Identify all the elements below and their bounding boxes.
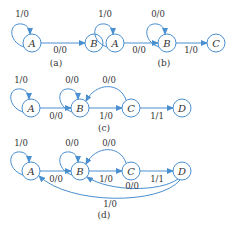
edge-label: 1/1 [150,174,164,184]
edge-label: 1/0 [15,9,29,19]
edge-label: 1/0 [99,174,113,184]
edge-d-C-B [86,150,126,164]
state-label: A [26,103,34,114]
edge-label: 0/0 [132,45,146,55]
edge-label: 0/0 [102,138,116,148]
edge-label: 0/0 [65,138,79,148]
state-diagrams: 1/0 0/0 A B (a) 1/0 0/0 0/0 1/0 A B C (b… [0,0,238,232]
state-label: D [177,103,186,114]
state-label: C [127,103,135,114]
diagram-c: 1/0 0/0 0/0 1/0 0/0 1/1 A B C D (c) [11,75,191,133]
edge-label: 1/1 [150,111,164,121]
state-label: A [110,38,118,49]
edge-label: 1/0 [184,45,198,55]
state-label: B [75,103,83,114]
caption: (b) [158,58,171,68]
edge-label: 0/0 [125,181,139,191]
state-label: D [177,166,186,177]
caption: (c) [98,123,110,133]
edge-label: 1/0 [14,75,28,85]
edge-label: 0/0 [49,111,63,121]
edge-label: 0/0 [53,45,67,55]
caption: (a) [50,58,62,68]
edge-label: 1/0 [98,9,112,19]
diagram-d: 1/0 0/0 0/0 1/0 0/0 1/1 0/0 1/0 A B C D … [11,138,191,220]
caption: (d) [98,210,111,220]
diagram-b: 1/0 0/0 0/0 1/0 A B C (b) [95,9,225,68]
state-label: A [26,166,34,177]
edge-label: 0/0 [151,9,165,19]
edge-label: 1/0 [99,111,113,121]
edge-c-C-B [86,87,126,101]
state-label: C [127,166,135,177]
edge-label: 0/0 [65,75,79,85]
edge-label: 0/0 [49,174,63,184]
state-label: B [75,166,83,177]
diagram-a: 1/0 0/0 A B (a) [12,9,103,68]
edge-label: 0/0 [102,75,116,85]
edge-label: 1/0 [103,199,117,209]
state-label: B [162,38,170,49]
edge-label: 1/0 [14,138,28,148]
state-label: C [212,38,220,49]
state-label: A [27,38,35,49]
